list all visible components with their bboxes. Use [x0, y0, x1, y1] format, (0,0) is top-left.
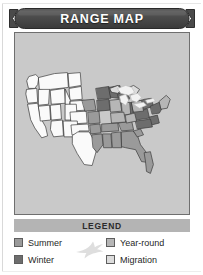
legend-header-label: LEGEND	[82, 221, 122, 231]
map-region-unshaded	[26, 73, 96, 166]
legend-label-year-round: Year-round	[120, 238, 164, 248]
bird-silhouette	[76, 242, 104, 259]
legend-column-right: Year-round Migration	[106, 234, 190, 268]
legend-body: Summer Winter Year-round Migration	[14, 234, 190, 268]
range-map-card: RANGE MAP	[0, 0, 203, 275]
legend-item-migration: Migration	[106, 251, 190, 268]
us-range-map-svg	[15, 33, 189, 214]
legend-label-summer: Summer	[28, 238, 62, 248]
legend-header-bar: LEGEND	[14, 219, 190, 232]
legend-item-year-round: Year-round	[106, 234, 190, 251]
title-banner: RANGE MAP	[9, 7, 195, 30]
flying-bird-icon	[74, 235, 108, 265]
card-frame-left-edge	[2, 3, 3, 271]
range-map-panel	[14, 32, 190, 215]
legend-swatch-winter-icon	[14, 255, 23, 264]
page-title: RANGE MAP	[9, 7, 195, 30]
legend-swatch-summer-icon	[14, 238, 23, 247]
card-frame-bottom-edge	[2, 271, 201, 272]
legend-label-migration: Migration	[120, 255, 157, 265]
legend-label-winter: Winter	[28, 255, 54, 265]
legend-swatch-migration-icon	[106, 255, 115, 264]
card-frame-top-edge	[2, 3, 201, 4]
legend-swatch-year-round-icon	[106, 238, 115, 247]
